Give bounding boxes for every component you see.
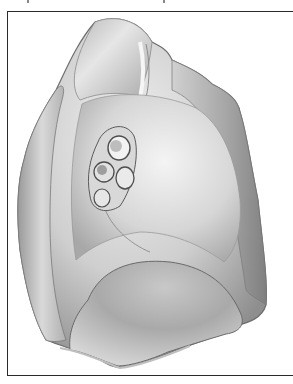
lung-illustration	[0, 0, 293, 384]
pulmonary-vein-lower	[94, 189, 110, 207]
pulmonary-vein-upper	[116, 167, 134, 189]
